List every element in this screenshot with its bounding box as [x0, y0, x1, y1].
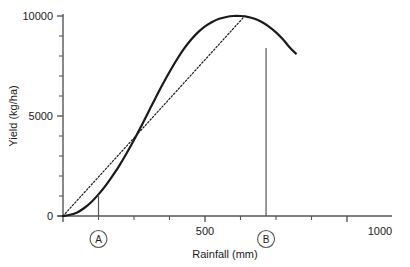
y-tick-label-5000: 5000 [29, 110, 53, 122]
marker-a-label: A [95, 234, 102, 245]
x-axis-major-ticks [63, 216, 347, 222]
chart-figure: A B 10000 5000 0 500 1000 Rainfall (mm) … [0, 0, 410, 267]
tangent-line [63, 16, 245, 216]
y-axis-title: Yield (kg/ha) [7, 85, 19, 146]
x-axis-title: Rainfall (mm) [192, 248, 257, 260]
marker-b-label: B [263, 234, 270, 245]
y-tick-label-10000: 10000 [22, 10, 53, 22]
y-tick-label-0: 0 [47, 210, 53, 222]
x-tick-label-1000: 1000 [368, 225, 392, 237]
axis-group [58, 14, 392, 216]
x-tick-label-500: 500 [196, 225, 214, 237]
y-axis-major-ticks [57, 16, 63, 216]
chart-canvas: A B 10000 5000 0 500 1000 Rainfall (mm) … [0, 0, 410, 267]
yield-response-curve [63, 16, 296, 216]
